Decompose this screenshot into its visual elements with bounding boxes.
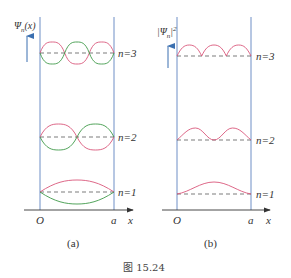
diagram-canvas (0, 0, 291, 278)
wall-label-b: a (248, 215, 254, 226)
subfigure-label-a: (a) (67, 238, 79, 249)
wavefunction-n2-a (40, 124, 114, 150)
psi-argument: (x) (25, 20, 36, 31)
level-label-n1-a: n=1 (118, 187, 136, 198)
y-axis-label-a: Ψn(x) (14, 21, 36, 34)
probability-n3-b (177, 45, 251, 56)
probability-n2-b (177, 128, 251, 140)
panel-a (24, 17, 133, 210)
psi-symbol: Ψ (14, 20, 21, 31)
wavefunction-n1-a (40, 180, 114, 204)
level-label-n3-b: n=3 (256, 51, 274, 62)
infinite-square-well-figure: Ψn(x) n=3 n=2 n=1 O a x (a) |Ψn|2 n=3 n=… (0, 0, 291, 278)
probability-n1-b (177, 182, 251, 194)
level-label-n3-a: n=3 (118, 48, 136, 59)
square-exponent: 2 (173, 25, 177, 33)
level-label-n1-b: n=1 (256, 189, 274, 200)
panel-b (162, 17, 270, 210)
y-axis-label-b: |Ψn|2 (157, 26, 177, 40)
figure-caption: 图 15.24 (123, 263, 165, 273)
abs-psi-symbol: |Ψ (157, 26, 167, 37)
level-label-n2-b: n=2 (256, 135, 274, 146)
origin-label-a: O (36, 215, 44, 226)
wavefunction-n3-a (40, 42, 114, 64)
wall-label-a: a (111, 215, 117, 226)
x-axis-label-a: x (128, 215, 133, 226)
subfigure-label-b: (b) (204, 238, 217, 249)
x-axis-label-b: x (266, 215, 271, 226)
level-label-n2-a: n=2 (118, 132, 136, 143)
origin-label-b: O (173, 215, 181, 226)
